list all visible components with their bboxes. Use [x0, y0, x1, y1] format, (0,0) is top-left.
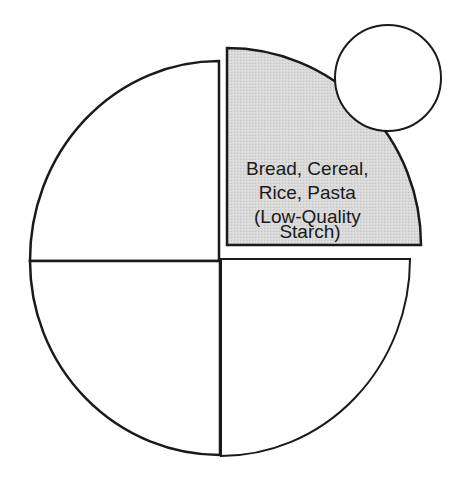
plate-diagram: Bread, Cereal, Rice, Pasta (Low-Quality … [0, 0, 464, 480]
quadrant-bottom-left [30, 261, 220, 455]
quadrant-top-left [30, 61, 219, 261]
label-line-4: Starch) [279, 221, 340, 242]
label-line-1: Bread, Cereal, [246, 158, 369, 179]
label-line-2: Rice, Pasta [259, 182, 357, 203]
quadrant-bottom-right [221, 259, 410, 456]
side-circle [335, 25, 441, 131]
